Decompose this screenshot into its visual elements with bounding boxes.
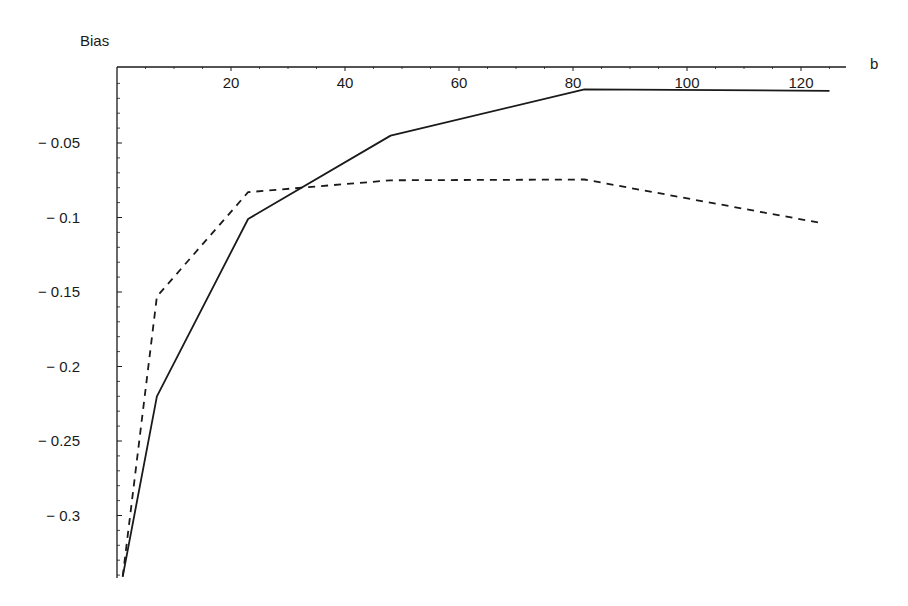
x-tick-label: 80: [565, 74, 582, 91]
x-tick-label: 40: [337, 74, 354, 91]
x-tick-label: 20: [223, 74, 240, 91]
y-tick-label: − 0.15: [38, 283, 80, 300]
plot-area: 20406080100120 − 0.05− 0.1− 0.15− 0.2− 0…: [38, 32, 878, 578]
y-ticks: − 0.05− 0.1− 0.15− 0.2− 0.25− 0.3: [38, 83, 122, 575]
x-axis-title: b: [870, 55, 878, 72]
x-ticks: 20406080100120: [146, 67, 830, 91]
y-tick-label: − 0.1: [46, 209, 80, 226]
x-tick-label: 60: [451, 74, 468, 91]
line-chart: 20406080100120 − 0.05− 0.1− 0.15− 0.2− 0…: [0, 0, 908, 606]
y-tick-label: − 0.2: [46, 358, 80, 375]
y-axis-title: Bias: [80, 32, 109, 49]
y-tick-label: − 0.05: [38, 134, 80, 151]
y-tick-label: − 0.3: [46, 507, 80, 524]
series-line-dashed: [123, 180, 824, 577]
series-line-solid: [123, 89, 830, 576]
x-tick-label: 120: [788, 74, 813, 91]
x-tick-label: 100: [674, 74, 699, 91]
y-tick-label: − 0.25: [38, 432, 80, 449]
series-layer: [123, 89, 830, 576]
